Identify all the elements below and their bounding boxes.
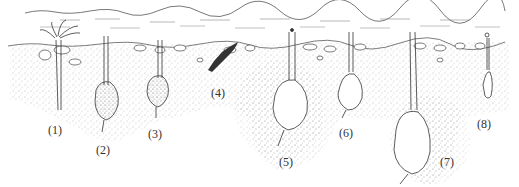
specimen-label-1: (1) [48, 124, 62, 136]
specimen-label-6: (6) [339, 127, 353, 139]
sediment [10, 42, 510, 185]
specimen-label-3: (3) [148, 128, 162, 140]
specimen-label-5: (5) [279, 156, 293, 168]
water-surface [25, 0, 505, 28]
specimen-label-8: (8) [477, 118, 491, 130]
specimen-label-2: (2) [96, 144, 110, 156]
sediment-illustration: (1) (2) (3) (4) (5) (6) (7) (8) [0, 0, 519, 187]
specimen-label-4: (4) [211, 87, 225, 99]
specimen-label-7: (7) [440, 156, 454, 168]
